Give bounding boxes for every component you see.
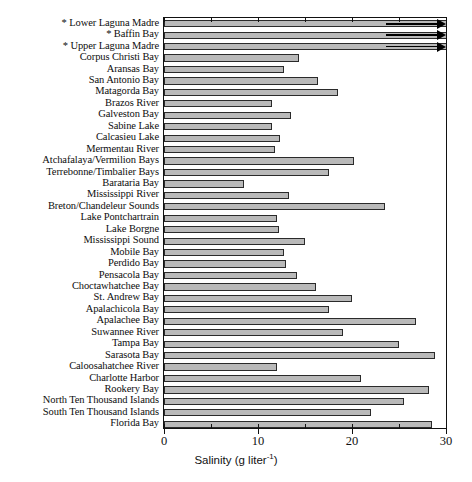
x-axis-title-exponent: -1: [267, 452, 274, 461]
category-label: St. Andrew Bay: [94, 291, 159, 302]
category-label: Suwannee River: [91, 326, 159, 337]
bar: [164, 54, 299, 61]
category-label: Perdido Bay: [108, 257, 159, 268]
x-axis-title: Salinity (g liter-1): [0, 452, 472, 466]
bar: [164, 112, 291, 119]
category-label-text: Tampa Bay: [112, 337, 159, 348]
overflow-arrow-stem: [386, 23, 438, 25]
x-minor-tick: [211, 424, 212, 428]
category-label: Terrebonne/Timbalier Bays: [46, 166, 159, 177]
x-axis-title-text: Salinity (g liter: [194, 454, 266, 466]
category-label: * Lower Laguna Madre: [62, 17, 159, 28]
bar: [164, 169, 329, 176]
x-minor-tick: [352, 18, 353, 22]
category-label-text: Lake Borgne: [106, 223, 159, 234]
x-tick-label: 0: [161, 434, 167, 449]
category-label-text: Terrebonne/Timbalier Bays: [46, 166, 159, 177]
category-label: San Antonio Bay: [89, 74, 159, 85]
bar: [164, 238, 305, 245]
bar: [164, 398, 404, 405]
bar: [164, 66, 284, 73]
bar: [164, 146, 275, 153]
category-label: Mermentau River: [86, 143, 159, 154]
category-axis-labels: * Lower Laguna Madre* Baffin Bay* Upper …: [0, 17, 161, 429]
category-label-text: Brazos River: [105, 97, 159, 108]
category-label-text: North Ten Thousand Islands: [43, 394, 159, 405]
category-label-text: Mobile Bay: [110, 246, 159, 257]
category-label: Lake Borgne: [106, 223, 159, 234]
overflow-arrow-icon: [437, 42, 446, 52]
category-label-text: Caloosahatchee River: [69, 360, 159, 371]
category-label: Apalachicola Bay: [86, 303, 159, 314]
overflow-arrow-stem: [386, 46, 438, 48]
x-minor-tick: [352, 424, 353, 428]
x-tick-label: 10: [252, 434, 265, 449]
overflow-arrow-stem: [386, 34, 438, 36]
bar: [164, 260, 286, 267]
category-label-text: Mississippi River: [87, 188, 159, 199]
bar: [164, 100, 272, 107]
category-label-text: Pensacola Bay: [99, 269, 159, 280]
category-label-text: Florida Bay: [110, 417, 159, 428]
bar: [164, 249, 284, 256]
category-label: Brazos River: [105, 97, 159, 108]
x-minor-tick: [258, 18, 259, 22]
category-label: North Ten Thousand Islands: [43, 394, 159, 405]
category-label: Choctawhatchee Bay: [72, 280, 159, 291]
category-label-text: Perdido Bay: [108, 257, 159, 268]
category-label-text: St. Andrew Bay: [94, 291, 159, 302]
category-label-text: Lower Laguna Madre: [69, 17, 159, 28]
x-minor-tick: [446, 18, 447, 22]
x-tick-label: 20: [346, 434, 359, 449]
bar: [164, 283, 316, 290]
category-label-text: Matagorda Bay: [95, 85, 159, 96]
bar: [164, 123, 272, 130]
category-label: Florida Bay: [110, 417, 159, 428]
category-label: Mississippi Sound: [83, 234, 159, 245]
category-label-text: Lake Pontchartrain: [81, 211, 159, 222]
asterisk-marker: *: [106, 28, 114, 39]
bar: [164, 341, 399, 348]
category-label: Mississippi River: [87, 188, 159, 199]
x-minor-tick: [258, 424, 259, 428]
category-label: Aransas Bay: [107, 63, 159, 74]
category-label: Matagorda Bay: [95, 85, 159, 96]
bar: [164, 180, 244, 187]
category-label-text: Charlotte Harbor: [89, 372, 159, 383]
category-label-text: Calcasieu Lake: [96, 131, 159, 142]
bar: [164, 192, 289, 199]
bar: [164, 135, 280, 142]
category-label-text: Baffin Bay: [114, 28, 159, 39]
bar: [164, 295, 352, 302]
bar: [164, 352, 435, 359]
category-label-text: Suwannee River: [91, 326, 159, 337]
bar: [164, 215, 277, 222]
overflow-arrow-icon: [437, 19, 446, 29]
x-axis: 0102030: [163, 429, 447, 437]
bar: [164, 421, 432, 428]
category-label: Tampa Bay: [112, 337, 159, 348]
category-label-text: Sabine Lake: [108, 120, 159, 131]
category-label-text: Apalachicola Bay: [86, 303, 159, 314]
category-label-text: Mississippi Sound: [83, 234, 159, 245]
bar: [164, 329, 343, 336]
category-label-text: Galveston Bay: [98, 108, 159, 119]
bar: [164, 89, 338, 96]
overflow-arrow-icon: [437, 30, 446, 40]
x-minor-tick: [164, 18, 165, 22]
category-label: Barataria Bay: [102, 177, 159, 188]
category-label: * Baffin Bay: [106, 28, 159, 39]
bar: [164, 306, 329, 313]
category-label: Lake Pontchartrain: [81, 211, 159, 222]
x-tick-label: 30: [440, 434, 453, 449]
category-label-text: Corpus Christi Bay: [80, 51, 159, 62]
category-label-text: Breton/Chandeleur Sounds: [48, 200, 159, 211]
category-label: Caloosahatchee River: [69, 360, 159, 371]
bar: [164, 157, 354, 164]
category-label: Sabine Lake: [108, 120, 159, 131]
category-label-text: San Antonio Bay: [89, 74, 159, 85]
category-label: * Upper Laguna Madre: [63, 40, 159, 51]
category-label-text: Barataria Bay: [102, 177, 159, 188]
category-label: Sarasota Bay: [105, 349, 159, 360]
chart-figure: * Lower Laguna Madre* Baffin Bay* Upper …: [0, 0, 472, 482]
